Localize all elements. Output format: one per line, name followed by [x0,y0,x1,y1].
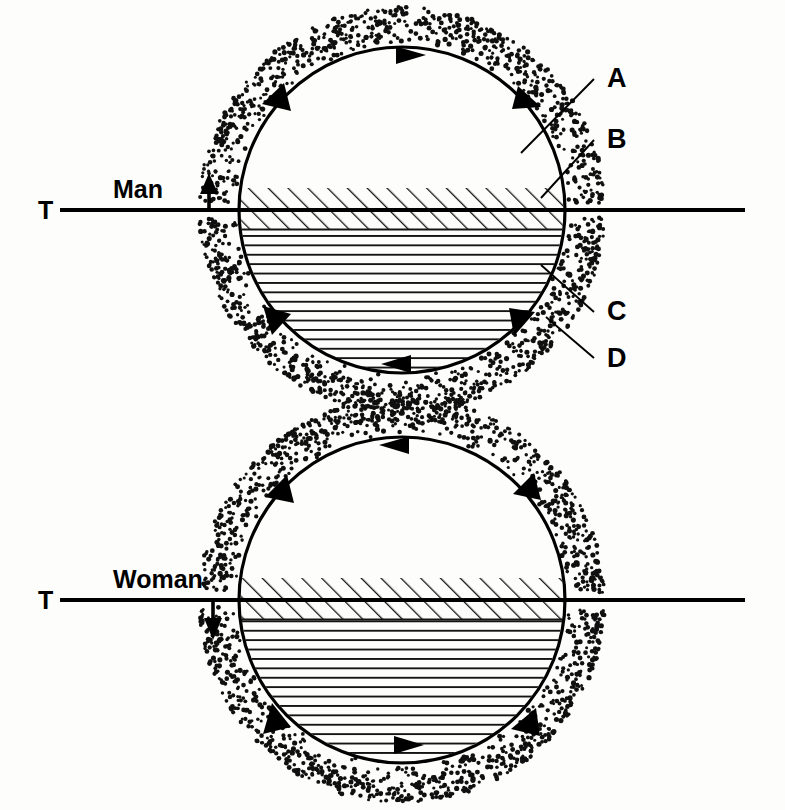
stipple-dot [565,494,568,497]
stipple-dot [280,347,285,352]
stipple-dot [519,446,523,450]
stipple-dot [442,27,447,32]
stipple-dot [595,261,599,265]
stipple-dot [212,645,215,648]
stipple-dot [210,641,213,644]
stipple-dot [554,135,559,140]
stipple-dot [542,689,545,692]
stipple-dot [282,752,286,756]
stipple-dot [506,427,510,431]
stipple-dot [254,506,258,510]
stipple-dot [536,76,539,79]
stipple-dot [346,379,350,383]
stipple-dot [323,388,327,392]
stipple-dot [341,431,344,434]
stipple-dot [273,363,276,366]
stipple-dot [223,586,228,591]
stipple-dot [484,372,488,376]
stipple-dot [389,40,393,44]
stipple-dot [406,400,411,405]
stipple-dot [449,770,454,775]
stipple-dot [370,26,375,31]
stipple-dot [511,342,514,345]
stipple-dot [511,365,515,369]
stipple-dot [260,719,263,722]
stipple-dot [284,445,287,448]
stipple-dot [523,443,526,446]
stipple-dot [409,795,414,800]
stipple-dot [478,781,481,784]
stipple-dot [276,66,280,70]
stipple-dot [237,159,241,163]
stipple-dot [369,16,373,20]
stipple-dot [238,497,242,501]
stipple-dot [586,183,590,187]
stipple-dot [368,795,372,799]
stipple-dot [579,235,584,240]
leader-line-d [546,317,594,358]
stipple-dot [229,558,232,561]
stipple-dot [426,394,430,398]
stipple-dot [294,443,298,447]
stipple-dot [588,534,593,539]
stipple-dot [215,181,220,186]
stipple-dot [239,490,243,494]
stipple-dot [369,405,374,410]
stipple-dot [274,353,278,357]
stipple-dot [494,419,497,422]
stipple-dot [349,399,352,402]
stipple-dot [565,713,570,718]
stipple-dot [526,55,531,60]
stipple-dot [293,763,297,767]
stipple-dot [225,190,228,193]
stipple-dot [467,758,472,763]
stipple-dot [217,663,222,668]
stipple-dot [397,792,400,795]
stipple-dot [230,147,233,150]
stipple-dot [376,392,381,397]
stipple-dot [416,420,421,425]
stipple-dot [306,377,311,382]
stipple-dot [276,358,280,362]
stipple-dot [349,14,353,18]
stipple-dot [396,797,401,802]
stipple-dot [563,148,566,151]
stipple-dot [529,736,533,740]
stipple-dot [471,390,476,395]
stipple-dot [476,383,480,387]
stipple-dot [227,268,231,272]
stipple-dot [438,406,443,411]
stipple-dot [376,398,380,402]
stipple-dot [282,50,287,55]
stipple-dot [519,354,523,358]
stipple-dot [463,371,468,376]
stipple-dot [248,336,253,341]
stipple-dot [370,414,374,418]
stipple-dot [346,784,349,787]
stipple-dot [560,689,564,693]
stipple-dot [266,476,270,480]
stipple-dot [461,367,465,371]
stipple-dot [581,534,584,537]
stipple-dot [551,312,554,315]
stipple-dot [562,128,566,132]
leader-line-b [541,140,594,198]
stipple-dot [559,103,563,107]
stipple-dot [488,49,491,52]
stipple-dot [236,313,239,316]
stipple-dot [264,462,267,465]
stipple-dot [361,782,365,786]
stipple-dot [284,371,288,375]
stipple-dot [441,771,445,775]
stipple-dot [404,771,407,774]
stipple-dot [522,747,526,751]
stipple-dot [233,654,237,658]
stipple-dot [548,467,551,470]
stipple-dot [464,39,469,44]
stipple-dot [457,23,462,28]
stipple-dot [307,436,310,439]
stipple-dot [424,386,429,391]
stipple-dot [328,43,332,47]
stipple-dot [245,689,249,693]
stipple-dot [577,268,581,272]
